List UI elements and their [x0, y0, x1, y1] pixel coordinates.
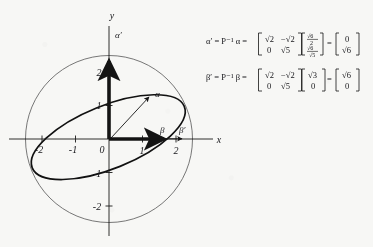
- matrix-b21: 0: [267, 81, 271, 91]
- vector-in-num-1: √6: [307, 33, 313, 39]
- beta-label: β: [159, 125, 165, 135]
- vector-in-den-2: √5: [309, 52, 315, 58]
- x-axis-label: x: [216, 134, 222, 145]
- matrix-a21: 0: [267, 45, 271, 55]
- equation-beta-equals: =: [327, 74, 332, 84]
- equation-alpha-equals: =: [327, 38, 332, 48]
- tick-label-y-neg1: -1: [93, 168, 101, 179]
- tick-label-x-pos2: 2: [174, 145, 179, 156]
- matrix-b22: √5: [281, 81, 290, 91]
- alpha-vector: [111, 97, 149, 138]
- beta-vector-out-2: 0: [345, 81, 349, 91]
- matrix-a11: √2: [265, 34, 274, 44]
- equation-alpha-vector-out: 0 √6: [336, 33, 359, 55]
- alpha-label: α: [155, 89, 160, 99]
- vector-out-1: 0: [345, 34, 349, 44]
- tick-label-y-pos2: 2: [97, 67, 102, 78]
- tick-label-x-neg2: -2: [35, 144, 43, 155]
- matrix-a12: −√2: [281, 34, 295, 44]
- tick-label-y-neg2: -2: [93, 201, 101, 212]
- matrix-b12: −√2: [281, 70, 295, 80]
- tick-label-origin: 0: [100, 144, 105, 155]
- equation-alpha: α′ = P⁻¹ α = √2 −√2 0 √5 √6 2: [206, 33, 359, 58]
- tick-label-y-pos1: 1: [97, 100, 102, 111]
- beta-vector-out-1: √6: [342, 70, 351, 80]
- equation-beta-vector-out: √6 0: [336, 69, 359, 91]
- equation-alpha-matrix: √2 −√2 0 √5: [259, 33, 302, 55]
- equation-alpha-vector-in: √6 2 √6 √5: [302, 33, 323, 58]
- figure-canvas: -2 -1 0 1 2 2 1 -1 -2 x y α α′ β β′: [0, 0, 373, 247]
- tick-label-x-neg1: -1: [69, 144, 77, 155]
- alpha-prime-label: α′: [115, 30, 123, 40]
- equation-beta: β′ = P⁻¹ β = √2 −√2 0 √5 √3 0 =: [206, 69, 359, 91]
- equation-beta-lhs: β′ = P⁻¹ β =: [206, 72, 247, 82]
- equations-block: α′ = P⁻¹ α = √2 −√2 0 √5 √6 2: [206, 33, 359, 91]
- beta-vector-in-1: √3: [308, 70, 317, 80]
- equation-beta-matrix: √2 −√2 0 √5: [259, 69, 302, 91]
- beta-vector-in-2: 0: [311, 81, 315, 91]
- math-figure: -2 -1 0 1 2 2 1 -1 -2 x y α α′ β β′: [0, 0, 373, 247]
- vector-in-num-2: √6: [307, 45, 313, 51]
- matrix-b11: √2: [265, 70, 274, 80]
- beta-prime-label: β′: [178, 125, 186, 135]
- equation-alpha-lhs: α′ = P⁻¹ α =: [206, 36, 247, 46]
- matrix-a22: √5: [281, 45, 290, 55]
- y-axis-label: y: [109, 10, 115, 21]
- equation-beta-vector-in: √3 0: [302, 69, 325, 91]
- vector-out-2: √6: [342, 45, 351, 55]
- tick-label-x-pos1: 1: [140, 145, 145, 156]
